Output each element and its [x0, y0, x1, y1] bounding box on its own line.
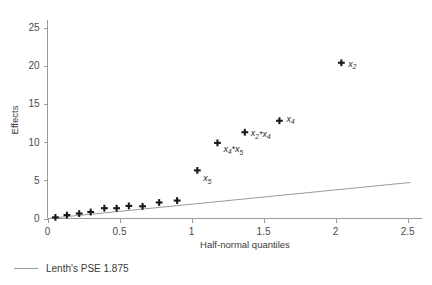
point-label: x5 — [202, 173, 212, 184]
data-point — [276, 117, 283, 124]
legend-item-label: Lenth's PSE 1.875 — [46, 263, 129, 274]
data-point — [52, 214, 59, 221]
point-label: x2 — [347, 59, 357, 70]
plot-svg: 0510152025 00.511.522.5 Effects Half-nor… — [0, 0, 432, 285]
data-point — [241, 129, 248, 136]
point-label: x4 — [285, 114, 295, 125]
data-point — [194, 167, 201, 174]
x-tick-label: 1.5 — [257, 226, 271, 237]
y-tick-label: 5 — [34, 175, 40, 186]
data-point — [214, 140, 221, 147]
y-tick-label: 25 — [28, 22, 40, 33]
y-tick-label: 15 — [28, 98, 40, 109]
data-point — [101, 205, 108, 212]
data-points: x5x4*x5x2*x4x4x2 — [52, 59, 357, 221]
x-axis-ticks: 00.511.522.5 — [45, 219, 415, 237]
x-tick-label: 2 — [333, 226, 339, 237]
data-point — [174, 197, 181, 204]
x-tick-label: 0 — [45, 226, 51, 237]
point-label: x4*x5 — [222, 144, 243, 156]
y-axis-title: Effects — [9, 105, 20, 134]
y-axis-ticks: 0510152025 — [28, 22, 47, 224]
legend: Lenth's PSE 1.875 — [14, 263, 129, 274]
half-normal-plot: 0510152025 00.511.522.5 Effects Half-nor… — [0, 0, 432, 285]
x-axis-title: Half-normal quantiles — [200, 239, 290, 250]
data-point — [113, 205, 120, 212]
data-point — [64, 212, 71, 219]
data-point — [125, 203, 132, 210]
data-point — [338, 59, 345, 66]
data-point — [156, 199, 163, 206]
x-tick-label: 1 — [189, 226, 195, 237]
lenths-pse-reference-line — [48, 182, 411, 218]
y-tick-label: 20 — [28, 60, 40, 71]
y-tick-label: 0 — [34, 213, 40, 224]
point-label: x2*x4 — [250, 128, 271, 140]
y-tick-label: 10 — [28, 137, 40, 148]
x-tick-label: 2.5 — [401, 226, 415, 237]
x-tick-label: 0.5 — [113, 226, 127, 237]
